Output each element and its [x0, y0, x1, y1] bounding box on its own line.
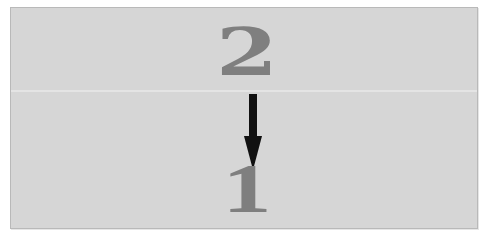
diagram-frame: 2 1 [10, 7, 478, 229]
numeral-two: 2 [193, 19, 301, 85]
numeral-one: 1 [191, 154, 303, 224]
